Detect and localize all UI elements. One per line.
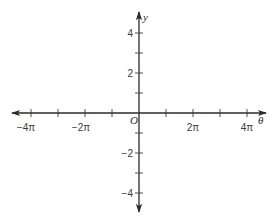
y-tick-label-neg2: −2	[122, 148, 134, 159]
y-tick-label-neg4: −4	[122, 188, 134, 199]
y-tick-label-2: 2	[127, 68, 133, 79]
origin-label: O	[130, 114, 138, 126]
x-tick-label-2pi: 2π	[187, 122, 200, 133]
y-axis-label: y	[142, 11, 148, 23]
x-tick-label-neg4pi: −4π	[17, 122, 35, 133]
coordinate-plane: −4π −2π 2π 4π 4 2 −2 −4 y θ O	[0, 0, 278, 217]
x-tick-label-4pi: 4π	[241, 122, 254, 133]
x-tick-label-neg2pi: −2π	[72, 122, 90, 133]
x-axis-label: θ	[258, 114, 264, 126]
y-tick-label-4: 4	[127, 28, 133, 39]
